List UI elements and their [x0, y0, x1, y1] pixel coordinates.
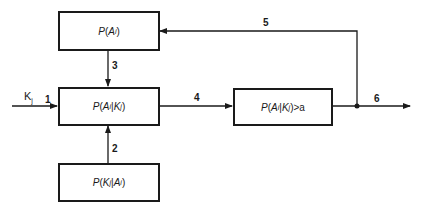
prior-block: P(Ai) — [58, 11, 160, 51]
edge-2-label: 2 — [112, 143, 118, 154]
prior-var: A — [108, 26, 115, 37]
threshold-var1: A — [271, 102, 278, 113]
threshold-var2: K — [282, 102, 289, 113]
posterior-func: P — [93, 101, 100, 112]
prior-close: ) — [116, 26, 119, 37]
output-junction-dot — [355, 104, 360, 109]
posterior-close: ) — [122, 101, 125, 112]
likelihood-var2: A — [114, 177, 121, 188]
threshold-block: P(Ai|Kj)>a — [233, 88, 333, 126]
input-sub: j — [31, 97, 33, 104]
posterior-var1: A — [103, 101, 110, 112]
threshold-value: a — [299, 102, 305, 113]
edge-6-label: 6 — [374, 93, 380, 104]
input-label: Kj — [24, 90, 33, 104]
edge-3-label: 3 — [112, 60, 118, 71]
likelihood-func: P — [93, 177, 100, 188]
edge-1-label: 1 — [45, 94, 51, 105]
prior-func: P — [98, 26, 105, 37]
edge-5-label: 5 — [263, 17, 269, 28]
likelihood-block: P(Kj|Ai) — [58, 163, 160, 202]
likelihood-close: ) — [122, 177, 125, 188]
threshold-func: P — [261, 102, 268, 113]
posterior-block: P(Ai|Kj) — [58, 87, 160, 126]
edge-4-label: 4 — [194, 92, 200, 103]
